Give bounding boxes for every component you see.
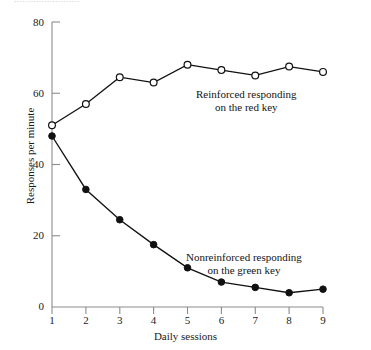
line-chart-canvas: [0, 0, 371, 350]
x-tick-label-6: 6: [211, 314, 231, 326]
x-tick-label-5: 5: [178, 314, 198, 326]
annotation-reinforced-line1: Reinforced responding: [196, 88, 297, 101]
y-axis-title: Responses per minute: [24, 71, 36, 241]
annotation-reinforced: Reinforced responding on the red key: [196, 88, 297, 114]
x-tick-label-1: 1: [42, 314, 62, 326]
x-tick-label-4: 4: [144, 314, 164, 326]
x-tick-label-9: 9: [313, 314, 333, 326]
x-axis-title: Daily sessions: [0, 330, 371, 342]
annotation-nonreinforced-line1: Nonreinforced responding: [186, 251, 302, 264]
x-tick-label-7: 7: [245, 314, 265, 326]
x-axis-ticks: [52, 307, 323, 314]
annotation-nonreinforced-line2: on the green key: [186, 264, 302, 277]
annotation-reinforced-line2: on the red key: [196, 101, 297, 114]
annotation-nonreinforced: Nonreinforced responding on the green ke…: [186, 251, 302, 277]
chart-figure: ……………………: [0, 0, 371, 350]
y-tick-label-0: 0: [16, 300, 44, 312]
x-tick-label-2: 2: [76, 314, 96, 326]
x-tick-label-3: 3: [110, 314, 130, 326]
x-tick-label-8: 8: [279, 314, 299, 326]
y-tick-label-80: 80: [16, 16, 44, 28]
